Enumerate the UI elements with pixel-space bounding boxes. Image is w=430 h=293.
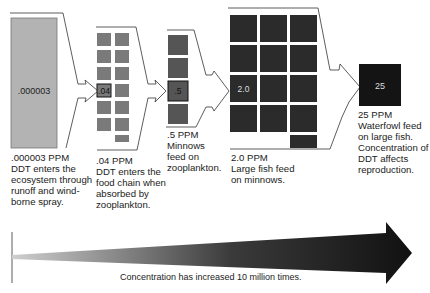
water-box-value: .000003 xyxy=(18,86,51,96)
large-fish-cell xyxy=(230,15,257,42)
minnow-cell xyxy=(168,104,188,124)
large-fish-cell xyxy=(290,45,317,72)
large-fish-cell xyxy=(260,45,287,72)
description: Minnows feed on zooplankton. xyxy=(167,140,221,173)
large-fish-cell xyxy=(260,105,287,132)
large-fish-cell xyxy=(230,105,257,132)
caption-waterfowl: 25 PPM Waterfowl feed on large fish. Con… xyxy=(358,109,428,175)
large-fish-cell-value: 2.0 xyxy=(238,84,250,94)
minnow-cell xyxy=(168,58,188,78)
stage-water: .000003 xyxy=(11,18,57,148)
zooplankton-cell xyxy=(115,67,129,80)
waterfowl-box-value: 25 xyxy=(375,81,385,91)
large-fish-cell xyxy=(290,105,317,132)
caption-zooplankton: .04 PPM DDT enters the food chain when a… xyxy=(96,155,166,210)
zooplankton-cell xyxy=(97,50,111,63)
ppm-label: .04 PPM xyxy=(96,155,166,166)
zooplankton-cell xyxy=(97,67,111,80)
zooplankton-cell-value: .04 xyxy=(98,86,110,96)
ppm-label: .000003 PPM xyxy=(11,152,92,163)
zooplankton-cell xyxy=(115,101,129,114)
large-fish-cell xyxy=(290,15,317,42)
caption-water: .000003 PPM DDT enters the ecosystem thr… xyxy=(11,152,92,207)
zooplankton-cell xyxy=(115,33,129,46)
large-fish-cell xyxy=(230,45,257,72)
zooplankton-cell xyxy=(97,118,111,131)
description: DDT enters the ecosystem through runoff … xyxy=(11,163,92,207)
stage-minnows: .5 xyxy=(168,35,188,124)
large-fish-cell xyxy=(290,75,317,102)
large-fish-cell xyxy=(260,75,287,102)
zooplankton-cell xyxy=(115,50,129,63)
zooplankton-cell xyxy=(115,84,129,97)
minnow-cell xyxy=(168,35,188,55)
concentration-label: Concentration has increased 10 million t… xyxy=(120,272,302,282)
minnow-cell-value: .5 xyxy=(174,86,181,96)
ppm-label: .5 PPM xyxy=(167,129,221,140)
water-box xyxy=(11,18,57,148)
description: Large fish feed on minnows. xyxy=(231,163,294,185)
description: Waterfowl feed on large fish. Concentrat… xyxy=(358,120,428,175)
large-fish-cell xyxy=(290,135,317,148)
large-fish-cell xyxy=(260,15,287,42)
stage-waterfowl: 25 xyxy=(359,64,401,106)
zooplankton-cell xyxy=(115,118,129,131)
ppm-label: 25 PPM xyxy=(358,109,428,120)
ppm-label: 2.0 PPM xyxy=(231,152,294,163)
caption-large-fish: 2.0 PPM Large fish feed on minnows. xyxy=(231,152,294,185)
zooplankton-cell xyxy=(97,33,111,46)
description: DDT enters the food chain when absorbed … xyxy=(96,166,166,210)
caption-minnows: .5 PPM Minnows feed on zooplankton. xyxy=(167,129,221,173)
stage-large-fish: 2.0 xyxy=(230,15,317,148)
zooplankton-cell xyxy=(115,135,129,142)
stage-zooplankton: .04 xyxy=(97,33,129,142)
zooplankton-cell xyxy=(97,101,111,114)
